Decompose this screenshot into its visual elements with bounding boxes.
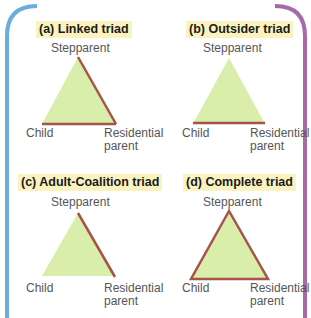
- triad-triangle: [0, 0, 311, 318]
- child-label: Child: [182, 282, 209, 295]
- residential-parent-label-line2: parent: [250, 295, 284, 308]
